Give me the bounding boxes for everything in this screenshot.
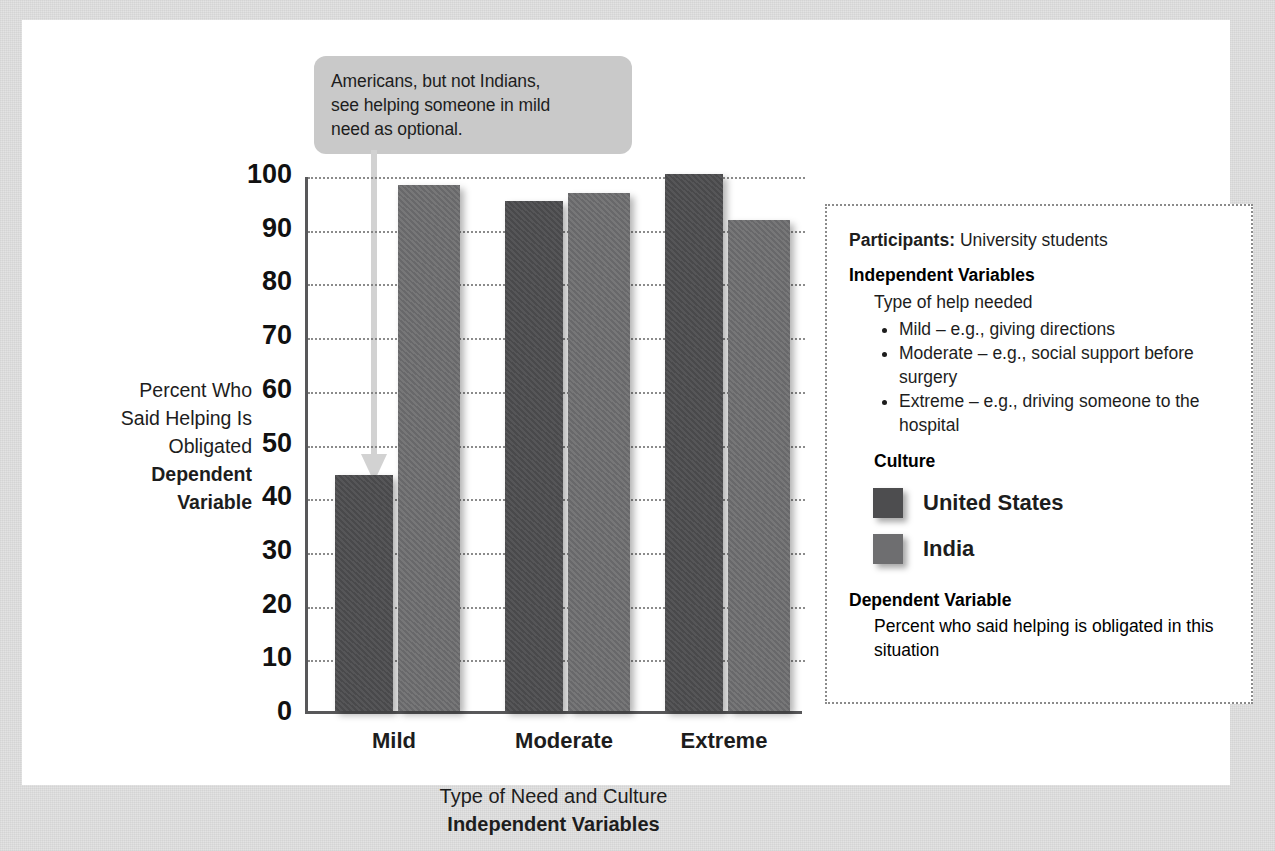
y-axis-tick-90: 90 xyxy=(220,213,292,244)
participants-value: University students xyxy=(960,230,1108,250)
dependent-variable-heading: Dependent Variable xyxy=(849,590,1233,611)
y-axis-tick-60: 60 xyxy=(220,374,292,405)
legend-swatch-united-states-icon xyxy=(873,488,903,518)
iv-bullet-mild: Mild – e.g., giving directions xyxy=(899,317,1233,341)
legend-item-united-states: United States xyxy=(873,488,1233,518)
y-axis-tick-70: 70 xyxy=(220,320,292,351)
participants-row: Participants: University students xyxy=(849,228,1233,253)
gridline-100 xyxy=(308,177,805,179)
culture-heading: Culture xyxy=(874,451,1233,472)
x-axis-tick-mild: Mild xyxy=(304,728,484,754)
x-axis-title-bold: Independent Variables xyxy=(305,810,802,838)
y-axis-tick-10: 10 xyxy=(220,642,292,673)
bar-extreme-india xyxy=(728,220,790,711)
y-axis-tick-20: 20 xyxy=(220,589,292,620)
study-info-box: Participants: University students Indepe… xyxy=(825,204,1253,704)
slide-canvas: Americans, but not Indians, see helping … xyxy=(22,20,1230,785)
callout-line-1: Americans, but not Indians, xyxy=(331,69,615,93)
callout-line-2: see helping someone in mild xyxy=(331,93,615,117)
callout-line-3: need as optional. xyxy=(331,117,615,141)
x-axis-title-line: Type of Need and Culture xyxy=(305,782,802,810)
x-axis-tick-extreme: Extreme xyxy=(634,728,814,754)
chart-plot-area: 1009080706050403020100 xyxy=(305,177,802,714)
callout-bubble: Americans, but not Indians, see helping … xyxy=(314,56,632,154)
bar-extreme-united-states xyxy=(665,174,723,711)
legend-label-united-states: United States xyxy=(923,490,1064,516)
legend-label-india: India xyxy=(923,536,974,562)
x-axis-title: Type of Need and Culture Independent Var… xyxy=(305,782,802,838)
y-axis-tick-0: 0 xyxy=(220,696,292,727)
bar-mild-united-states xyxy=(335,475,393,711)
x-axis-tick-moderate: Moderate xyxy=(474,728,654,754)
y-axis-tick-100: 100 xyxy=(220,159,292,190)
legend-swatch-india-icon xyxy=(873,534,903,564)
y-axis-tick-40: 40 xyxy=(220,481,292,512)
iv-subheading: Type of help needed xyxy=(874,290,1233,315)
y-axis-tick-50: 50 xyxy=(220,428,292,459)
y-axis-tick-30: 30 xyxy=(220,535,292,566)
bar-moderate-india xyxy=(568,193,630,711)
bar-moderate-united-states xyxy=(505,201,563,711)
iv-bullet-extreme: Extreme – e.g., driving someone to the h… xyxy=(899,389,1233,437)
iv-bullet-list: Mild – e.g., giving directions Moderate … xyxy=(899,317,1233,437)
legend-item-india: India xyxy=(873,534,1233,564)
chart-grid-and-bars: 1009080706050403020100 xyxy=(308,177,802,711)
slide-frame: Americans, but not Indians, see helping … xyxy=(0,0,1275,851)
bar-mild-india xyxy=(398,185,460,711)
independent-variables-heading: Independent Variables xyxy=(849,265,1233,286)
participants-label: Participants: xyxy=(849,230,955,250)
y-axis-tick-80: 80 xyxy=(220,266,292,297)
dependent-variable-text: Percent who said helping is obligated in… xyxy=(874,614,1233,662)
iv-bullet-moderate: Moderate – e.g., social support before s… xyxy=(899,341,1233,389)
